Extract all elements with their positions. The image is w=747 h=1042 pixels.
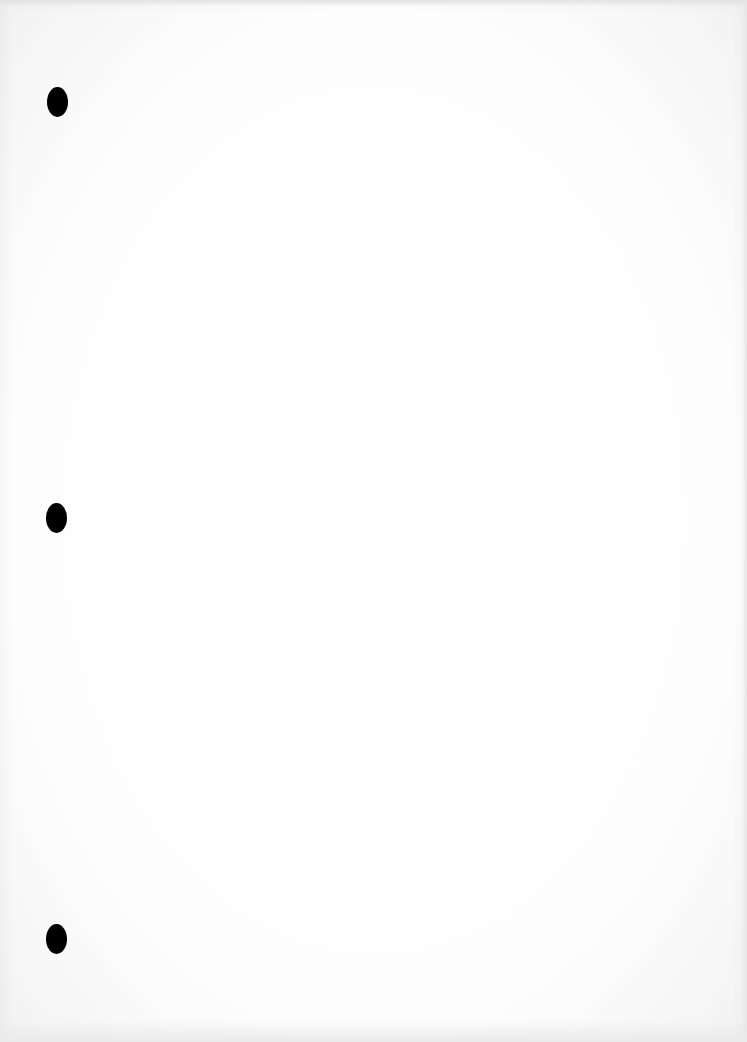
- punch-hole-middle: [46, 503, 67, 533]
- paper-top-edge-shadow: [0, 0, 747, 6]
- paper-right-edge-shadow: [742, 0, 747, 1042]
- punch-hole-bottom: [46, 924, 67, 954]
- paper-bottom-edge-shadow: [0, 1020, 747, 1042]
- punch-hole-top: [47, 87, 68, 117]
- blank-paper-page: [0, 0, 747, 1042]
